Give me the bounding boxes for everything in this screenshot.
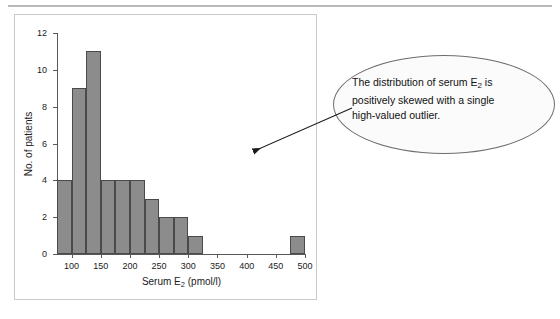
annotation-line-1-pre: The distribution of serum E <box>352 76 477 88</box>
histogram-bar <box>115 180 130 254</box>
x-tick-label: 100 <box>64 261 79 271</box>
y-tick <box>53 254 57 255</box>
y-tick-label: 4 <box>42 175 47 185</box>
x-tick-label: 500 <box>297 261 312 271</box>
x-axis-label: Serum E2 (pmol/l) <box>57 276 306 289</box>
histogram-bar <box>86 51 101 254</box>
x-axis-label-post: (pmol/l) <box>185 276 221 287</box>
x-tick-label: 350 <box>210 261 225 271</box>
x-tick-label: 250 <box>152 261 167 271</box>
annotation-line-1: The distribution of serum E2 is <box>352 75 538 93</box>
x-axis-label-pre: Serum E <box>142 276 181 287</box>
annotation-text: The distribution of serum E2 is positive… <box>352 75 538 123</box>
annotation-line-1-post: is <box>482 76 493 88</box>
histogram-bar <box>145 199 160 254</box>
histogram-bar <box>101 180 116 254</box>
x-tick-label: 300 <box>181 261 196 271</box>
y-tick-label: 2 <box>42 212 47 222</box>
histogram-bar <box>130 180 145 254</box>
x-tick <box>247 254 248 258</box>
y-tick-label: 0 <box>42 249 47 259</box>
x-tick-label: 200 <box>122 261 137 271</box>
y-tick-label: 8 <box>42 102 47 112</box>
x-axis-line <box>57 254 306 255</box>
x-tick-label: 400 <box>239 261 254 271</box>
x-tick <box>305 254 306 258</box>
x-tick <box>159 254 160 258</box>
annotation-line-3: high-valued outlier. <box>352 108 538 123</box>
y-tick-label: 12 <box>37 28 47 38</box>
x-tick <box>101 254 102 258</box>
x-tick <box>188 254 189 258</box>
annotation-line-2: positively skewed with a single <box>352 93 538 108</box>
x-tick-label: 450 <box>268 261 283 271</box>
histogram-bar <box>57 180 72 254</box>
y-axis-label: No. of patients <box>23 112 34 176</box>
y-tick-label: 6 <box>42 139 47 149</box>
x-tick <box>130 254 131 258</box>
x-tick <box>72 254 73 258</box>
callout-arrow-icon <box>246 104 356 158</box>
histogram-bar <box>290 236 305 254</box>
histogram-bar <box>188 236 203 254</box>
x-tick <box>217 254 218 258</box>
x-tick-label: 150 <box>93 261 108 271</box>
x-tick <box>276 254 277 258</box>
top-divider-rule <box>8 5 552 7</box>
histogram-bar <box>174 217 189 254</box>
y-tick-label: 10 <box>37 65 47 75</box>
histogram-bar <box>159 217 174 254</box>
histogram-bar <box>72 88 87 254</box>
